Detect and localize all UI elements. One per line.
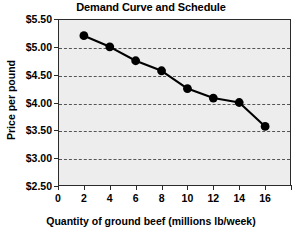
y-tick-label: $5.00: [6, 41, 52, 53]
data-point-marker: [157, 66, 166, 75]
data-point-marker: [261, 122, 270, 131]
data-point-marker: [79, 31, 88, 40]
y-tick-label: $3.00: [6, 152, 52, 164]
data-series-layer: [58, 19, 291, 186]
data-point-marker: [105, 42, 114, 51]
x-tick-label: 16: [250, 192, 280, 204]
y-tick-label: $4.00: [6, 97, 52, 109]
chart-figure: Demand Curve and Schedule Price per poun…: [0, 0, 302, 234]
y-tick-label: $3.50: [6, 124, 52, 136]
y-tick-label: $2.50: [6, 180, 52, 192]
data-point-marker: [235, 98, 244, 107]
x-tick-mark: [291, 185, 292, 190]
data-point-marker: [209, 94, 218, 103]
y-tick-label: $5.50: [6, 13, 52, 25]
data-point-marker: [183, 84, 192, 93]
data-point-marker: [131, 56, 140, 65]
x-axis-label: Quantity of ground beef (millions lb/wee…: [0, 215, 302, 227]
data-point-markers: [79, 31, 269, 131]
chart-title: Demand Curve and Schedule: [0, 1, 302, 13]
y-tick-label: $4.50: [6, 69, 52, 81]
